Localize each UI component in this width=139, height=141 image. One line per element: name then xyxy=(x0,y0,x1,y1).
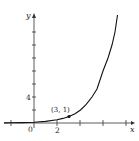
chart: y x 0 2 4 (3, 1) xyxy=(0,0,139,141)
point-marker xyxy=(67,115,70,118)
x-tick-label-2: 2 xyxy=(55,126,60,135)
point-label: (3, 1) xyxy=(51,106,70,114)
y-axis-label: y xyxy=(25,11,31,20)
origin-label: 0 xyxy=(28,125,33,134)
y-tick-label-4: 4 xyxy=(26,93,31,102)
y-axis-arrow-icon xyxy=(32,13,36,18)
x-axis-label: x xyxy=(130,125,135,134)
